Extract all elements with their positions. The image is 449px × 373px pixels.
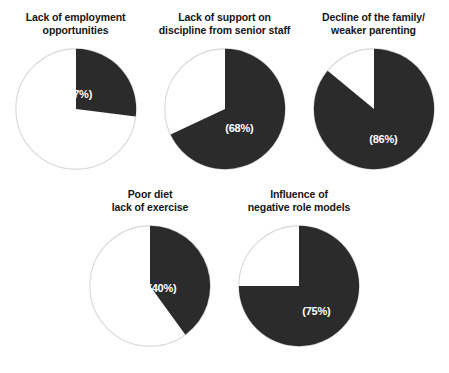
pie-slices bbox=[88, 224, 212, 348]
chart-title-line1: Lack of support on bbox=[178, 11, 271, 23]
chart-row-top: Lack of employment opportunities (27%) L… bbox=[0, 11, 449, 171]
chart-title-line2: opportunities bbox=[26, 24, 126, 37]
chart-title-line2: discipline from senior staff bbox=[159, 24, 290, 37]
chart-cell-decline-of-the-family: Decline of the family/ weaker parenting … bbox=[299, 11, 448, 171]
chart-title-line1: Decline of the family/ bbox=[322, 11, 425, 23]
pie-chart: (75%) bbox=[237, 224, 361, 348]
chart-title: Poor diet lack of exercise bbox=[111, 188, 190, 216]
chart-title-line1: Poor diet bbox=[128, 188, 173, 200]
pie-chart: (27%) bbox=[14, 47, 138, 171]
pie-chart: (68%) bbox=[163, 47, 287, 171]
cropped-header-text bbox=[0, 0, 449, 9]
pie-slices bbox=[14, 47, 138, 171]
chart-title-line2: negative role models bbox=[248, 201, 350, 214]
pie-chart-figure: Lack of employment opportunities (27%) L… bbox=[0, 0, 449, 373]
chart-cell-lack-of-support-on-discipline: Lack of support on discipline from senio… bbox=[150, 11, 299, 171]
pie-slices bbox=[312, 47, 436, 171]
chart-title-line2: lack of exercise bbox=[112, 201, 189, 214]
pie-chart: (40%) bbox=[88, 224, 212, 348]
chart-cell-poor-diet-lack-of-exercise: Poor diet lack of exercise (40%) bbox=[76, 188, 225, 348]
chart-title-line1: Lack of employment bbox=[26, 11, 126, 23]
chart-title: Lack of employment opportunities bbox=[25, 11, 127, 39]
chart-cell-lack-of-employment-opportunities: Lack of employment opportunities (27%) bbox=[1, 11, 150, 171]
chart-title: Decline of the family/ weaker parenting bbox=[321, 11, 426, 39]
chart-title-line2: weaker parenting bbox=[322, 24, 425, 37]
chart-row-bottom: Poor diet lack of exercise (40%) Influen… bbox=[0, 188, 449, 348]
pie-chart: (86%) bbox=[312, 47, 436, 171]
chart-title: Influence of negative role models bbox=[247, 188, 351, 216]
chart-cell-influence-of-negative-role-models: Influence of negative role models (75%) bbox=[225, 188, 374, 348]
pie-slices bbox=[163, 47, 287, 171]
chart-title-line1: Influence of bbox=[270, 188, 328, 200]
pie-slices bbox=[237, 224, 361, 348]
chart-title: Lack of support on discipline from senio… bbox=[158, 11, 291, 39]
